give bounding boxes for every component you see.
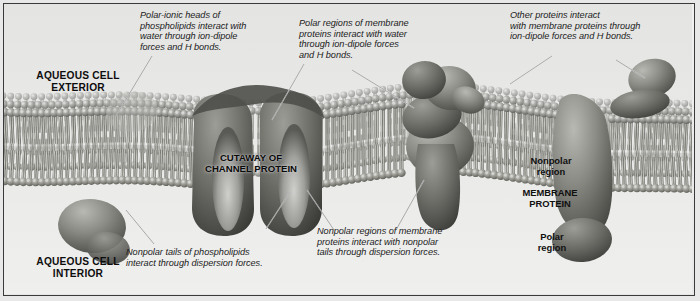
protein-transmembrane-stalk xyxy=(415,144,460,230)
annotation-polar-regions-proteins: Polar regions of membrane proteins inter… xyxy=(299,18,471,60)
channel-lumen-left xyxy=(212,127,244,231)
label-cutaway-channel-protein: CUTAWAY OF CHANNEL PROTEIN xyxy=(190,152,312,174)
label-polar-region: Polar region xyxy=(522,232,582,253)
label-nonpolar-region: Nonpolar region xyxy=(518,156,584,177)
label-aqueous-cell-exterior: AQUEOUS CELL EXTERIOR xyxy=(16,70,140,93)
channel-lumen-right xyxy=(278,124,310,228)
annotation-nonpolar-tails: Nonpolar tails of phospholipids interact… xyxy=(126,247,326,268)
annotation-nonpolar-regions-proteins: Nonpolar regions of membrane proteins in… xyxy=(317,226,497,258)
annotation-polar-ionic-heads: Polar-ionic heads of phospholipids inter… xyxy=(140,10,300,52)
label-membrane-protein: MEMBRANE PROTEIN xyxy=(510,188,590,209)
figure-root: AQUEOUS CELL EXTERIOR AQUEOUS CELL INTER… xyxy=(0,0,700,301)
label-aqueous-cell-interior: AQUEOUS CELL INTERIOR xyxy=(16,256,140,279)
annotation-other-proteins: Other proteins interact with membrane pr… xyxy=(510,10,695,42)
figure-frame: AQUEOUS CELL EXTERIOR AQUEOUS CELL INTER… xyxy=(3,3,695,296)
